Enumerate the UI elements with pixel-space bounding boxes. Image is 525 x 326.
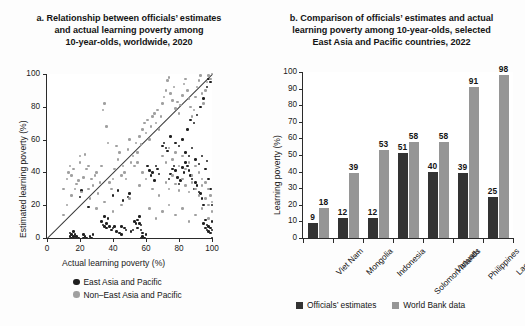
scatter-point: [122, 165, 125, 168]
scatter-point: [209, 81, 212, 84]
scatter-point: [84, 153, 87, 156]
scatter-point: [120, 225, 123, 228]
bar-viet-nam-officials: [308, 223, 318, 238]
scatter-point: [112, 194, 115, 197]
bar-y-tick: [299, 188, 302, 189]
scatter-point: [194, 165, 197, 168]
bar-y-tick: [299, 122, 302, 123]
legend-marker-dark-square-icon: [296, 302, 303, 309]
scatter-point: [198, 163, 201, 166]
scatter-point: [128, 138, 131, 141]
legend-item-officials-estimates: Officials’ estimates: [296, 300, 376, 310]
scatter-y-tick: [43, 172, 46, 173]
scatter-point: [183, 83, 186, 86]
scatter-point: [174, 183, 177, 186]
scatter-point: [105, 227, 108, 230]
scatter-point: [201, 197, 204, 200]
legend-label-non-east-asia-and-pacific: Non–East Asia and Pacific: [84, 290, 182, 300]
bar-y-tick-label: 10: [272, 216, 297, 225]
scatter-point: [204, 89, 207, 92]
scatter-plot-area: [47, 74, 212, 238]
scatter-point: [87, 165, 90, 168]
bar-value-label: 39: [345, 162, 363, 172]
panel-b-title-line-3: East Asia and Pacific countries, 2022: [262, 36, 521, 48]
legend-item-non-east-asia-and-pacific: Non–East Asia and Pacific: [73, 290, 182, 300]
bar-y-tick: [299, 89, 302, 90]
scatter-point: [115, 230, 118, 233]
scatter-point: [168, 178, 171, 181]
scatter-point: [158, 173, 161, 176]
scatter-x-tick-label: 0: [37, 244, 57, 253]
scatter-point: [146, 119, 149, 122]
scatter-point: [107, 142, 110, 145]
bar-y-tick: [299, 172, 302, 173]
scatter-x-tick: [212, 239, 213, 242]
bar-y-tick: [299, 221, 302, 222]
scatter-point: [132, 155, 135, 158]
scatter-point: [87, 206, 90, 209]
bar-y-tick: [299, 72, 302, 73]
scatter-point: [110, 188, 113, 191]
scatter-point: [191, 178, 194, 181]
scatter-point: [184, 184, 187, 187]
scatter-point: [80, 191, 83, 194]
scatter-point: [194, 96, 197, 99]
scatter-point: [160, 115, 163, 118]
scatter-x-tick: [80, 239, 81, 242]
scatter-point: [82, 176, 85, 179]
scatter-point: [79, 155, 82, 158]
scatter-point: [69, 165, 72, 168]
legend-label-world-bank-data: World Bank data: [403, 300, 465, 310]
scatter-point: [97, 192, 100, 195]
bar-value-label: 98: [495, 64, 513, 74]
scatter-point: [168, 188, 171, 191]
scatter-point: [165, 161, 168, 164]
scatter-point: [128, 192, 131, 195]
scatter-point: [79, 196, 82, 199]
scatter-point: [99, 181, 102, 184]
scatter-point: [70, 174, 73, 177]
scatter-point: [191, 174, 194, 177]
scatter-point: [166, 150, 169, 153]
scatter-point: [136, 161, 139, 164]
bar-vanuatu-world-bank: [439, 142, 449, 238]
scatter-point: [138, 184, 141, 187]
bar-category-tick: [423, 239, 424, 243]
scatter-point: [176, 176, 179, 179]
scatter-point: [151, 115, 154, 118]
scatter-point: [128, 197, 131, 200]
scatter-point: [191, 147, 194, 150]
scatter-point: [72, 168, 75, 171]
scatter-point: [174, 142, 177, 145]
scatter-point: [173, 86, 176, 89]
bar-y-tick: [299, 105, 302, 106]
scatter-point: [155, 122, 158, 125]
legend-marker-gray-square-icon: [392, 302, 399, 309]
scatter-point: [100, 165, 103, 168]
scatter-point: [117, 189, 120, 192]
scatter-point: [102, 109, 105, 112]
scatter-point: [211, 73, 214, 76]
bar-y-tick-label: 0: [272, 233, 297, 242]
scatter-y-tick: [43, 140, 46, 141]
scatter-point: [112, 178, 115, 181]
scatter-point: [188, 161, 191, 164]
scatter-point: [174, 151, 177, 154]
bar-y-tick: [299, 155, 302, 156]
scatter-x-tick: [146, 239, 147, 242]
scatter-point: [155, 217, 158, 220]
scatter-point: [132, 229, 135, 232]
bar-y-tick-label: 90: [272, 84, 297, 93]
scatter-point: [141, 171, 144, 174]
scatter-point: [171, 158, 174, 161]
scatter-point: [92, 184, 95, 187]
scatter-point: [123, 171, 126, 174]
scatter-point: [165, 181, 168, 184]
scatter-point: [202, 102, 205, 105]
scatter-point: [206, 160, 209, 163]
scatter-point: [163, 142, 166, 145]
bar-y-tick-label: 100: [272, 67, 297, 76]
scatter-point: [135, 222, 138, 225]
bar-category-tick: [363, 239, 364, 243]
bar-solomon-islands-world-bank: [409, 142, 419, 238]
